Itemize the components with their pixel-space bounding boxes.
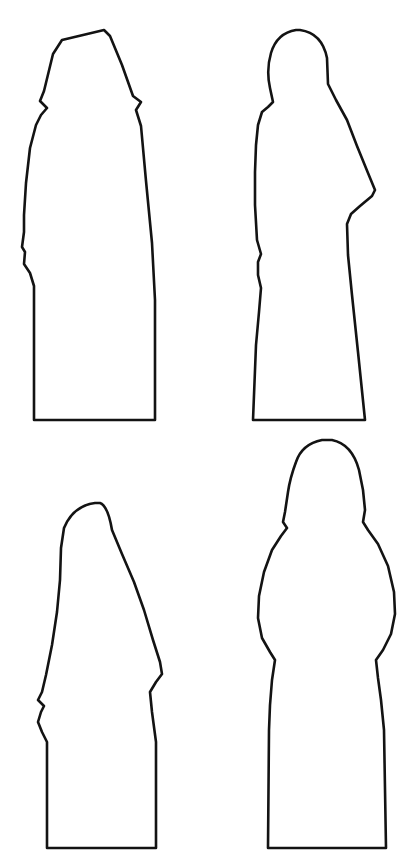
silhouette-canvas [0,0,413,850]
silhouette-sheet [0,0,413,850]
